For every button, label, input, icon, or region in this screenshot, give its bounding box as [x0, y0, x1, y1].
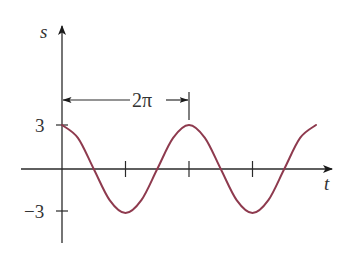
period-label: 2π: [132, 89, 152, 111]
x-axis-label: t: [324, 173, 330, 194]
y-tick-label-max: 3: [35, 115, 45, 136]
y-tick-label-min: −3: [24, 201, 44, 222]
cosine-wave-chart: s t 3 −3 2π: [0, 0, 358, 260]
y-axis-label: s: [40, 21, 47, 42]
